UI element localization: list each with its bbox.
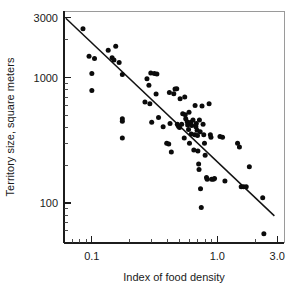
scatter-point <box>144 76 149 81</box>
scatter-point <box>149 120 154 125</box>
scatter-point <box>197 117 202 122</box>
scatter-point <box>260 195 265 200</box>
scatter-point <box>207 101 212 106</box>
scatter-point <box>182 95 187 100</box>
scatter-point <box>261 231 266 236</box>
scatter-point <box>120 72 125 77</box>
scatter-point <box>169 150 174 155</box>
scatter-point <box>154 71 159 76</box>
scatter-point <box>205 177 210 182</box>
scatter-point <box>202 141 207 146</box>
scatter-point <box>198 186 203 191</box>
scatter-point <box>247 164 252 169</box>
scatter-point <box>174 86 179 91</box>
scatter-point <box>178 96 183 101</box>
scatter-point <box>208 135 213 140</box>
x-tick-label: 0.1 <box>84 250 99 262</box>
scatter-point <box>166 142 171 147</box>
y-axis-title: Territory size, square meters <box>4 57 16 196</box>
scatter-point <box>113 44 118 49</box>
scatter-point <box>89 71 94 76</box>
scatter-point <box>197 167 202 172</box>
scatter-point <box>106 48 111 53</box>
scatter-point <box>80 26 85 31</box>
scatter-point <box>200 103 205 108</box>
scatter-point <box>120 119 125 124</box>
scatter-point <box>199 205 204 210</box>
scatter-point <box>111 58 116 63</box>
scatter-point <box>222 178 227 183</box>
scatter-point <box>244 184 249 189</box>
scatter-point <box>156 115 161 120</box>
scatter-point <box>171 91 176 96</box>
scatter-point <box>187 141 192 146</box>
scatter-plot-figure: 30001000100 0.11.03.0 Index of food dens… <box>0 0 306 288</box>
plot-canvas: 30001000100 0.11.03.0 Index of food dens… <box>0 0 306 288</box>
scatter-point <box>89 88 94 93</box>
scatter-point <box>212 176 217 181</box>
scatter-point <box>203 153 208 158</box>
scatter-point <box>154 92 159 97</box>
scatter-point <box>142 99 147 104</box>
x-tick-label: 1.0 <box>210 250 225 262</box>
scatter-point <box>220 135 225 140</box>
scatter-point <box>186 127 191 132</box>
scatter-point <box>147 101 152 106</box>
scatter-point <box>168 121 173 126</box>
scatter-point <box>201 122 206 127</box>
x-tick-label: 3.0 <box>270 250 285 262</box>
y-tick-label: 1000 <box>34 72 58 84</box>
scatter-point <box>161 124 166 129</box>
scatter-point <box>120 136 125 141</box>
scatter-point <box>117 60 122 65</box>
scatter-point <box>167 90 172 95</box>
plot-background <box>0 0 306 288</box>
x-axis-title: Index of food density <box>123 271 225 283</box>
y-tick-label: 3000 <box>34 12 58 24</box>
scatter-point <box>237 144 242 149</box>
scatter-point <box>195 149 200 154</box>
scatter-point <box>193 103 198 108</box>
scatter-point <box>92 56 97 61</box>
scatter-point <box>201 132 206 137</box>
scatter-point <box>196 161 201 166</box>
scatter-point <box>182 136 187 141</box>
scatter-point <box>87 54 92 59</box>
scatter-point <box>146 83 151 88</box>
scatter-point <box>187 110 192 115</box>
y-tick-label: 100 <box>40 197 58 209</box>
scatter-point <box>179 122 184 127</box>
